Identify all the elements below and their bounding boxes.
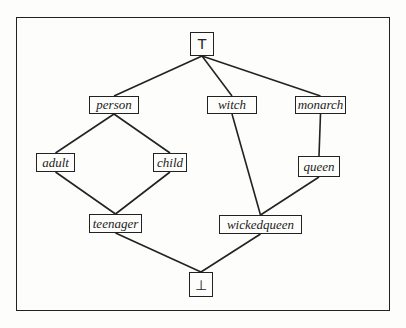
- edge-top-person: [114, 56, 202, 96]
- edge-wickedqueen-bottom: [201, 234, 261, 272]
- edge-person-adult: [56, 114, 115, 153]
- node-monarch: monarch: [295, 96, 346, 114]
- edge-queen-wickedqueen: [261, 177, 320, 215]
- edge-top-monarch: [202, 56, 321, 96]
- node-bottom: ⊥: [189, 272, 213, 297]
- edge-witch-wickedqueen: [232, 114, 261, 215]
- edge-top-witch: [202, 56, 232, 96]
- edge-adult-teenager: [56, 172, 116, 214]
- edge-child-teenager: [116, 172, 171, 214]
- node-top: T: [190, 32, 214, 56]
- edge-teenager-bottom: [116, 233, 202, 272]
- edge-monarch-queen: [319, 114, 321, 156]
- node-person: person: [89, 96, 139, 114]
- node-witch: witch: [207, 96, 257, 114]
- node-queen: queen: [298, 156, 340, 177]
- node-teenager: teenager: [89, 214, 142, 233]
- node-child: child: [153, 153, 187, 172]
- edge-person-child: [114, 114, 170, 153]
- node-adult: adult: [36, 153, 75, 172]
- node-wickedqueen: wickedqueen: [219, 215, 302, 234]
